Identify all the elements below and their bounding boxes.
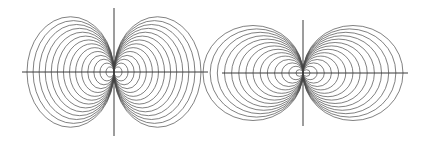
left-figure (22, 8, 208, 136)
right-figure (203, 20, 408, 126)
diagram-canvas (0, 0, 427, 143)
